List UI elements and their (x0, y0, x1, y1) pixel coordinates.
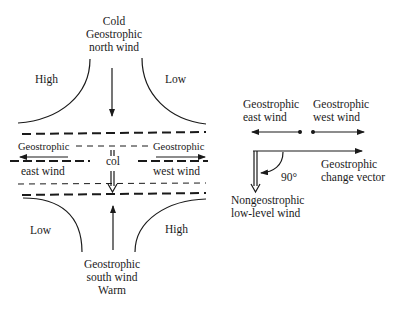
light-dashed-line-lower (18, 183, 206, 184)
bottom-label: Geostrophic south wind Warm (78, 258, 146, 297)
low-level-wind-arrowhead (251, 184, 260, 192)
east-wind-label: Geostrophic east wind (243, 98, 299, 124)
isobar-top-right (142, 58, 206, 124)
change-vector-label: Geostrophic change vector (321, 158, 385, 184)
quadrant-bottom-right: High (165, 223, 188, 236)
heavy-dashed-line-top (22, 132, 206, 134)
top-label: Cold Geostrophic north wind (84, 15, 144, 54)
col-arrowhead (108, 184, 117, 192)
left-wind-label-2: east wind (21, 165, 65, 178)
west-wind-label: Geostrophic west wind (313, 98, 369, 124)
quadrant-top-left: High (35, 73, 58, 86)
heavy-dashed-line-bottom (22, 193, 206, 195)
angle-label: 90° (281, 171, 297, 184)
angle-arc (261, 152, 283, 173)
right-wind-label-1: Geostrophic (153, 140, 204, 153)
right-wind-label-2: west wind (153, 165, 200, 178)
col-label: col (106, 155, 120, 168)
quadrant-top-right: Low (165, 73, 186, 86)
col-diagram (0, 0, 405, 312)
left-wind-label-1: Geostrophic (18, 140, 69, 153)
low-level-wind-label: Nongeostrophic low-level wind (231, 194, 304, 220)
quadrant-bottom-left: Low (30, 224, 51, 237)
isobar-top-left (18, 59, 90, 123)
